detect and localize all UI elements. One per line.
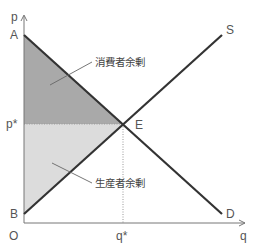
- supply-label: S: [226, 23, 234, 37]
- y-axis-label: p: [11, 10, 18, 24]
- surplus-diagram: p A p* B O q* q E S D 消費者余剰 生産者余剰: [0, 0, 253, 251]
- point-a-label: A: [10, 28, 18, 42]
- point-b-label: B: [10, 207, 18, 221]
- point-e-label: E: [135, 118, 143, 132]
- producer-surplus-label: 生産者余剰: [95, 177, 145, 189]
- p-star-label: p*: [6, 117, 18, 131]
- demand-label: D: [226, 207, 235, 221]
- consumer-surplus-label: 消費者余剰: [95, 56, 145, 68]
- q-star-label: q*: [116, 229, 128, 243]
- origin-label: O: [9, 229, 18, 243]
- x-axis-label: q: [240, 229, 247, 243]
